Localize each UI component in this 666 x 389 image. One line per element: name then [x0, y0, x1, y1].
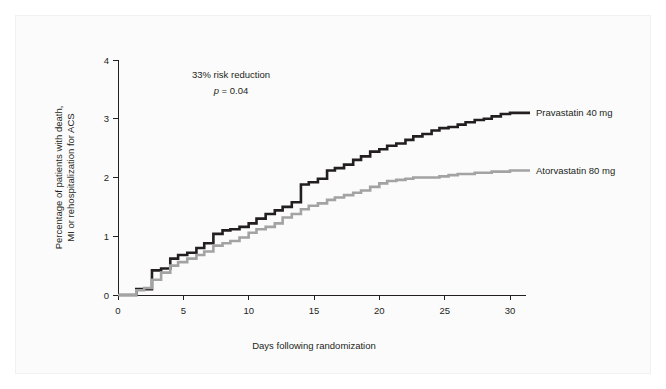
kaplan-meier-chart: 01234051015202530Days following randomiz…: [16, 16, 650, 373]
figure-panel: 01234051015202530Days following randomiz…: [16, 16, 650, 373]
x-tick-label-25: 25: [439, 305, 450, 316]
x-tick-label-10: 10: [243, 305, 254, 316]
y-tick-label-2: 2: [104, 172, 109, 183]
annotation-risk-reduction: 33% risk reduction: [192, 69, 270, 80]
x-tick-label-15: 15: [309, 305, 320, 316]
y-axis-title-line-1: Percentage of patients with death,: [53, 106, 64, 250]
y-tick-label-1: 1: [104, 231, 109, 242]
legend-pravastatin[interactable]: Pravastatin 40 mg: [536, 107, 613, 118]
x-tick-label-30: 30: [505, 305, 516, 316]
y-axis-title: Percentage of patients with death,MI or …: [53, 106, 76, 250]
x-tick-label-0: 0: [115, 305, 120, 316]
p-value-number: = 0.04: [219, 85, 248, 96]
x-tick-label-5: 5: [181, 305, 186, 316]
x-tick-label-20: 20: [374, 305, 385, 316]
y-tick-label-4: 4: [104, 55, 109, 66]
y-tick-label-0: 0: [104, 290, 109, 301]
annotation-p-value: p = 0.04: [213, 85, 249, 96]
y-axis-title-line-2: MI or rehospitalization for ACS: [65, 113, 76, 241]
legend-atorvastatin[interactable]: Atorvastatin 80 mg: [536, 165, 615, 176]
series-line-atorvastatin: [118, 170, 530, 295]
x-axis-title: Days following randomization: [252, 340, 376, 351]
y-tick-label-3: 3: [104, 113, 109, 124]
